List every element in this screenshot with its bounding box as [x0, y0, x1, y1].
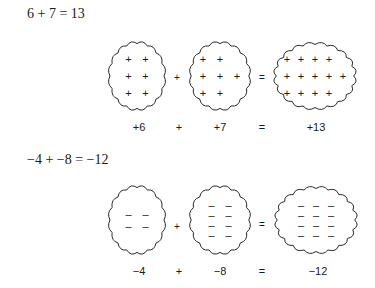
plus-charge-icon: + — [298, 71, 304, 82]
minus-charge-icon: – — [142, 221, 148, 232]
plus-charge-icon: + — [298, 54, 304, 65]
plus-charge-icon: + — [125, 54, 131, 65]
minus-charge-icon: – — [208, 230, 214, 241]
minus-charge-icon: – — [328, 230, 334, 241]
plus-charge-icon: + — [312, 88, 318, 99]
operator-equals: = — [259, 219, 265, 230]
minus-charge-icon: – — [125, 221, 131, 232]
operator-plus: + — [174, 72, 180, 83]
plus-charge-icon: + — [200, 54, 206, 65]
plus-charge-icon: + — [142, 54, 148, 65]
label-equals: = — [259, 265, 265, 277]
plus-charge-icon: + — [200, 71, 206, 82]
plus-charge-icon: + — [217, 54, 223, 65]
plus-charge-icon: + — [326, 88, 332, 99]
minus-charge-icon: – — [298, 230, 304, 241]
label-addend-b: +7 — [214, 121, 227, 133]
blob-minus-4-outline-icon — [99, 176, 175, 264]
plus-charge-icon: + — [340, 71, 346, 82]
plus-charge-icon: + — [217, 88, 223, 99]
plus-charge-icon: + — [284, 88, 290, 99]
label-operator: + — [176, 121, 182, 133]
plus-charge-icon: + — [200, 88, 206, 99]
label-addend-a: +6 — [133, 121, 146, 133]
plus-charge-icon: + — [284, 71, 290, 82]
plus-charge-icon: + — [312, 71, 318, 82]
plus-charge-icon: + — [326, 54, 332, 65]
plus-charge-icon: + — [125, 88, 131, 99]
blob-minus-8-outline-icon — [180, 176, 260, 264]
label-operator: + — [176, 265, 182, 277]
plus-charge-icon: + — [125, 71, 131, 82]
plus-charge-icon: + — [142, 71, 148, 82]
label-equals: = — [259, 121, 265, 133]
blob-plus-6-outline-icon — [99, 32, 175, 120]
plus-charge-icon: + — [142, 88, 148, 99]
minus-charge-icon: – — [125, 209, 131, 220]
minus-charge-icon: – — [142, 209, 148, 220]
plus-charge-icon: + — [284, 54, 290, 65]
label-result: −12 — [309, 265, 328, 277]
plus-charge-icon: + — [326, 71, 332, 82]
minus-charge-icon: – — [313, 230, 319, 241]
label-addend-b: −8 — [214, 265, 227, 277]
label-result: +13 — [307, 121, 326, 133]
equation-title-positive: 6 + 7 = 13 — [27, 6, 85, 22]
plus-charge-icon: + — [312, 54, 318, 65]
plus-charge-icon: + — [234, 71, 240, 82]
equation-title-negative: −4 + −8 = −12 — [27, 152, 108, 168]
plus-charge-icon: + — [298, 88, 304, 99]
operator-equals: = — [259, 72, 265, 83]
label-addend-a: −4 — [133, 265, 146, 277]
operator-plus: + — [174, 221, 180, 232]
minus-charge-icon: – — [225, 230, 231, 241]
plus-charge-icon: + — [217, 71, 223, 82]
